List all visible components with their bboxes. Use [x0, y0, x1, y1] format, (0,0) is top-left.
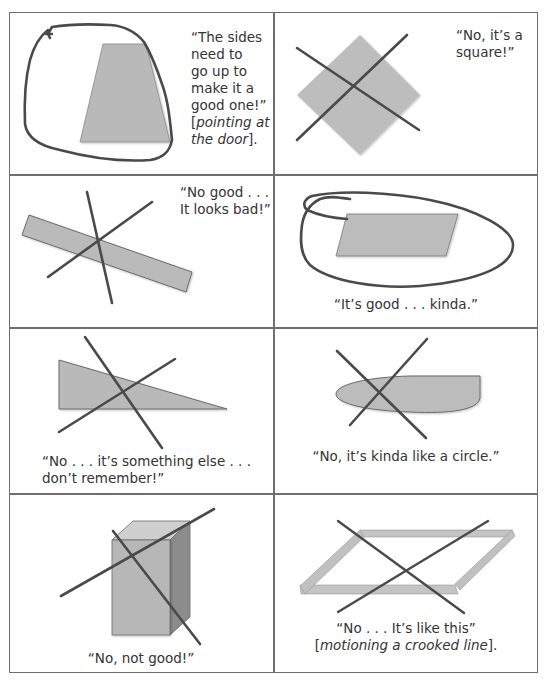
action-text: the door — [191, 131, 248, 147]
cell-1-quote: “The sides need to go up to make it a go… — [191, 29, 271, 148]
cell-7-prism-icon — [61, 509, 214, 644]
cell-7-quote: “No, not good!” — [10, 650, 272, 667]
quote-line: make it a — [191, 80, 271, 97]
quote-line: “No, it’s kinda like a circle.” — [275, 448, 537, 465]
cell-3-quote: “No good . . . It looks bad!” — [180, 184, 272, 218]
shapes-layer — [0, 0, 545, 683]
quote-line: “No, it’s a — [456, 27, 536, 44]
shape-sorting-figure: “The sides need to go up to make it a go… — [0, 0, 545, 683]
quote-line: “No . . . It’s like this” — [275, 620, 537, 637]
cell-2-quote: “No, it’s a square!” — [456, 27, 536, 61]
cell-8-quote: “No . . . It’s like this” [motioning a c… — [275, 620, 537, 654]
cell-6-quote: “No, it’s kinda like a circle.” — [275, 448, 537, 465]
cell-5-quote: “No . . . it’s something else . . . don’… — [42, 453, 272, 487]
action-text: pointing at — [196, 114, 269, 130]
action-note: [pointing at — [191, 114, 271, 131]
quote-line: “No good . . . — [180, 184, 272, 201]
cell-4-quote: “It’s good . . . kinda.” — [275, 296, 537, 313]
quote-line: good one!” — [191, 97, 271, 114]
quote-line: “No, not good!” — [10, 650, 272, 667]
cell-5-triangle-icon — [59, 337, 227, 448]
quote-line: need to — [191, 46, 271, 63]
cell-8-frame-icon — [300, 521, 515, 613]
quote-line: go up to — [191, 63, 271, 80]
bracket: ]. — [248, 131, 258, 147]
cell-4-parallelogram-icon — [301, 193, 513, 287]
quote-line: “The sides — [191, 29, 271, 46]
action-note: the door]. — [191, 131, 271, 148]
action-text: motioning a crooked line — [320, 637, 488, 653]
quote-line: square!” — [456, 44, 536, 61]
cell-6-half-ellipse-icon — [336, 339, 480, 438]
action-note: [motioning a crooked line]. — [275, 637, 537, 654]
quote-line: don’t remember!” — [42, 470, 272, 487]
quote-line: “No . . . it’s something else . . . — [42, 453, 272, 470]
bracket: ]. — [488, 637, 498, 653]
quote-line: It looks bad!” — [180, 201, 272, 218]
quote-line: “It’s good . . . kinda.” — [275, 296, 537, 313]
cell-2-square-icon — [297, 35, 420, 155]
cell-1-trapezoid-icon — [25, 24, 172, 160]
cell-3-rectangle-icon — [22, 192, 192, 303]
